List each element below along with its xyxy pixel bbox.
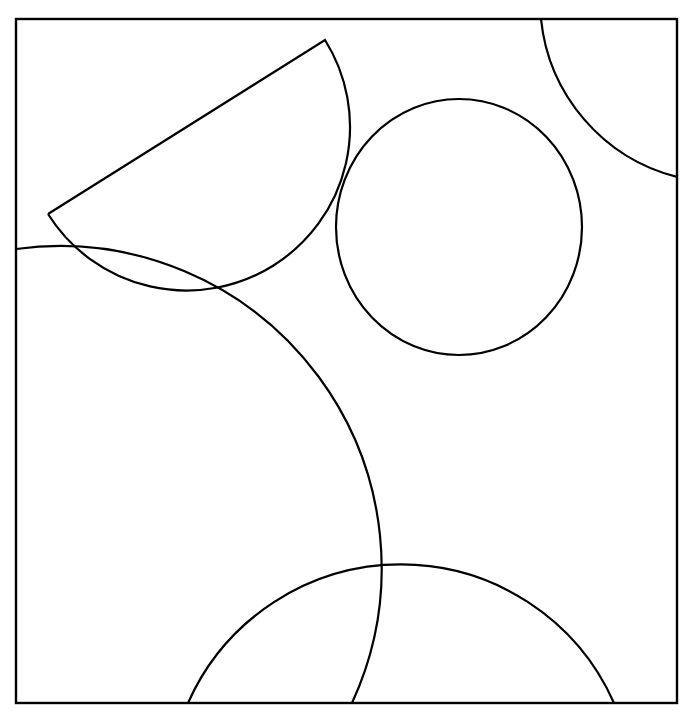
sector-shape (48, 40, 350, 291)
top-right-arc-shape (541, 19, 677, 177)
large-arc-shape (16, 246, 382, 703)
bounding-frame (16, 19, 677, 703)
shapes-group (16, 19, 677, 703)
circle-shape (336, 99, 582, 355)
bottom-arc-shape (188, 564, 614, 703)
diagram-canvas (0, 0, 693, 719)
